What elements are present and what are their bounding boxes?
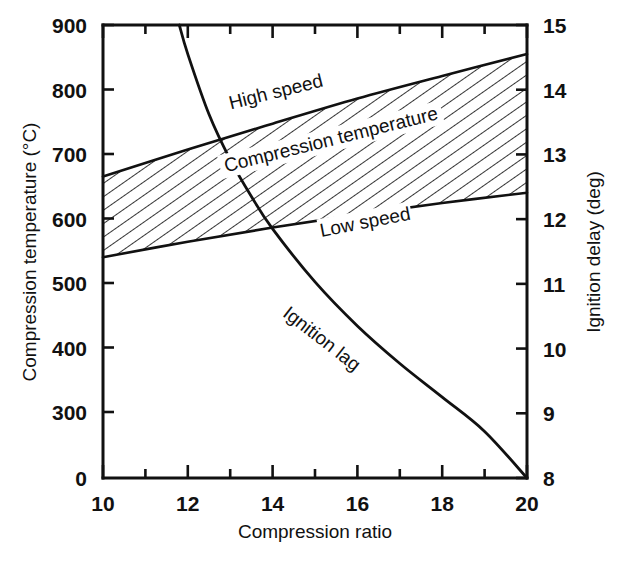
chart-canvas: 9008007006005004003000 15141312111098 10…	[0, 0, 620, 564]
left-axis-title: Compression temperature (°C)	[19, 123, 40, 382]
bottom-tick-label: 10	[91, 492, 114, 515]
left-tick-label: 500	[52, 272, 87, 295]
bottom-tick-label: 12	[176, 492, 199, 515]
left-tick-label: 700	[52, 143, 87, 166]
bottom-tick-label: 14	[261, 492, 285, 515]
left-tick-label: 300	[52, 401, 87, 424]
right-tick-label: 12	[543, 208, 566, 231]
bottom-tick-label: 20	[515, 492, 538, 515]
right-tick-label: 9	[543, 402, 555, 425]
right-tick-label: 13	[543, 143, 566, 166]
chart-figure: 9008007006005004003000 15141312111098 10…	[0, 0, 620, 564]
right-tick-label: 14	[543, 79, 567, 102]
right-tick-label: 10	[543, 338, 566, 361]
right-tick-label: 15	[543, 14, 567, 37]
left-tick-label: 0	[75, 467, 87, 490]
bottom-tick-label: 16	[346, 492, 369, 515]
left-tick-label: 800	[52, 79, 87, 102]
bottom-tick-label: 18	[431, 492, 455, 515]
left-tick-label: 900	[52, 14, 87, 37]
right-tick-label: 8	[543, 467, 555, 490]
left-tick-label: 400	[52, 337, 87, 360]
left-tick-label: 600	[52, 208, 87, 231]
right-tick-label: 11	[543, 273, 566, 296]
right-axis-title: Ignition delay (deg)	[583, 171, 604, 333]
bottom-axis-title: Compression ratio	[238, 521, 392, 542]
